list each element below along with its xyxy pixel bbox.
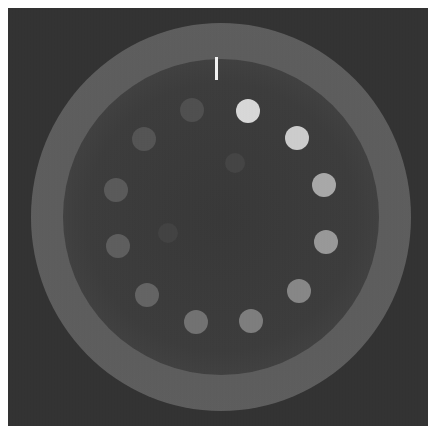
- contrast-insert-5: [287, 279, 311, 303]
- contrast-insert-11: [132, 127, 156, 151]
- alignment-marker: [215, 57, 218, 80]
- contrast-insert-8: [135, 283, 159, 307]
- contrast-insert-13: [225, 153, 245, 173]
- contrast-insert-6: [239, 309, 263, 333]
- ct-image-frame: [8, 8, 428, 426]
- contrast-insert-12: [180, 98, 204, 122]
- contrast-insert-4: [314, 230, 338, 254]
- contrast-insert-10: [104, 178, 128, 202]
- contrast-insert-14: [158, 223, 178, 243]
- phantom-inner-disk: [63, 59, 379, 375]
- contrast-insert-3: [312, 173, 336, 197]
- contrast-insert-2: [285, 126, 309, 150]
- contrast-insert-9: [106, 234, 130, 258]
- contrast-insert-7: [184, 310, 208, 334]
- contrast-insert-1: [236, 99, 260, 123]
